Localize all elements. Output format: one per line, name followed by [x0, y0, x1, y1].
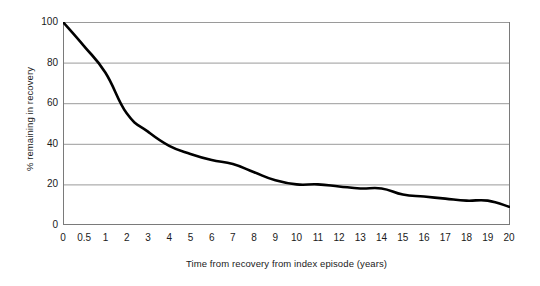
y-tick-label: 60 — [32, 98, 58, 108]
x-tick-label: 20 — [494, 232, 524, 244]
plot-area — [63, 22, 510, 225]
y-tick-label: 20 — [32, 179, 58, 189]
gridlines — [63, 23, 510, 185]
plot-svg — [63, 22, 510, 225]
y-tick-label: 0 — [32, 220, 58, 230]
chart-container: % remaining in recovery 100806040200 00.… — [0, 0, 540, 286]
y-tick-label: 100 — [32, 17, 58, 27]
x-axis-title: Time from recovery from index episode (y… — [63, 258, 510, 269]
x-axis-tick-labels: 00.51234567891011121314151617181920 — [63, 232, 510, 246]
y-tick-label: 40 — [32, 139, 58, 149]
axis-lines — [63, 22, 510, 225]
data-series-line — [63, 22, 509, 207]
y-tick-label: 80 — [32, 58, 58, 68]
